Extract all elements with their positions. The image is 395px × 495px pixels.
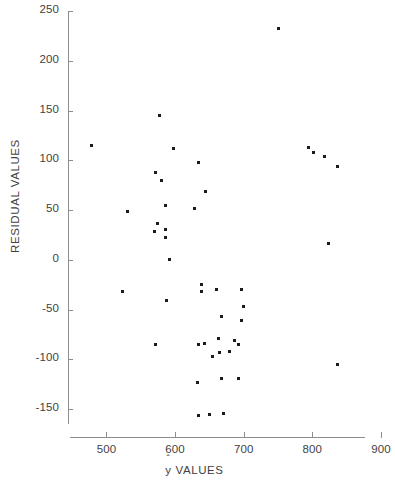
- y-axis-title: RESIDUAL VALUES: [9, 116, 21, 276]
- data-point: [211, 355, 214, 358]
- x-tick-label: 900: [356, 443, 395, 455]
- data-point: [240, 288, 243, 291]
- data-point: [197, 343, 200, 346]
- data-point: [164, 236, 167, 239]
- data-point: [215, 288, 218, 291]
- data-point: [220, 377, 223, 380]
- data-point: [90, 144, 93, 147]
- data-point: [153, 230, 156, 233]
- x-tick-mark: [381, 432, 382, 438]
- y-letter: y: [165, 464, 171, 476]
- y-axis-line: [68, 11, 69, 424]
- y-tick-mark: [68, 210, 73, 211]
- data-point: [196, 381, 199, 384]
- data-point: [237, 343, 240, 346]
- data-point: [323, 155, 326, 158]
- data-point: [203, 342, 206, 345]
- y-tick-label: 200: [13, 53, 59, 65]
- x-tick-mark: [312, 432, 313, 438]
- data-point: [336, 363, 339, 366]
- data-point: [204, 190, 207, 193]
- data-point: [336, 165, 339, 168]
- x-tick-mark: [106, 432, 107, 438]
- y-tick-mark: [68, 11, 73, 12]
- data-point: [237, 377, 240, 380]
- x-tick-label: 800: [287, 443, 337, 455]
- data-point: [208, 413, 211, 416]
- x-tick-mark: [175, 432, 176, 438]
- data-point: [158, 114, 161, 117]
- data-point: [164, 228, 167, 231]
- data-point: [172, 147, 175, 150]
- data-point: [156, 222, 159, 225]
- data-point: [168, 258, 171, 261]
- data-point: [240, 319, 243, 322]
- data-point: [200, 283, 203, 286]
- x-axis-title: ˆy VALUES: [0, 464, 389, 476]
- data-point: [197, 414, 200, 417]
- y-tick-label: 250: [13, 3, 59, 15]
- data-point: [160, 179, 163, 182]
- data-point: [154, 171, 157, 174]
- y-tick-label: 150: [13, 103, 59, 115]
- data-point: [277, 27, 280, 30]
- data-point: [307, 146, 310, 149]
- data-point: [165, 299, 168, 302]
- data-point: [164, 204, 167, 207]
- y-tick-label: -100: [13, 351, 59, 363]
- y-tick-mark: [68, 409, 73, 410]
- data-point: [233, 339, 236, 342]
- data-point: [200, 290, 203, 293]
- data-point: [154, 343, 157, 346]
- data-point: [218, 351, 221, 354]
- data-point: [327, 242, 330, 245]
- y-tick-mark: [68, 260, 73, 261]
- x-tick-mark: [244, 432, 245, 438]
- y-tick-mark: [68, 61, 73, 62]
- x-tick-label: 700: [219, 443, 269, 455]
- data-point: [126, 210, 129, 213]
- x-axis-line: [70, 437, 365, 438]
- data-point: [193, 207, 196, 210]
- x-tick-label: 600: [150, 443, 200, 455]
- data-point: [220, 315, 223, 318]
- data-point: [312, 151, 315, 154]
- data-point: [217, 337, 220, 340]
- y-tick-label: -150: [13, 401, 59, 413]
- data-point: [197, 161, 200, 164]
- data-point: [242, 305, 245, 308]
- y-tick-mark: [68, 111, 73, 112]
- y-tick-mark: [68, 160, 73, 161]
- x-tick-label: 500: [81, 443, 131, 455]
- data-point: [121, 290, 124, 293]
- y-tick-mark: [68, 310, 73, 311]
- y-tick-mark: [68, 359, 73, 360]
- y-tick-label: -50: [13, 302, 59, 314]
- y-hat-symbol: ˆy: [165, 464, 171, 476]
- x-axis-title-suffix: VALUES: [172, 464, 224, 476]
- data-point: [228, 350, 231, 353]
- plot-area: [68, 11, 381, 437]
- data-point: [222, 412, 225, 415]
- caret-accent: ˆ: [165, 455, 171, 465]
